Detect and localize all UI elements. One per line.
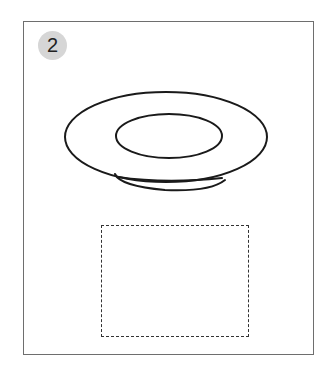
plate-outer-rim [65, 92, 267, 182]
answer-drawing-area[interactable] [101, 225, 249, 337]
plate-inner-well [116, 114, 222, 158]
